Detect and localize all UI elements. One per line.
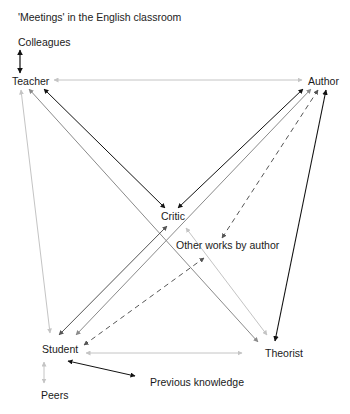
edge-student-previous-knowledge <box>68 361 135 376</box>
edge-student-other-works <box>84 258 204 345</box>
edge-author-critic <box>178 89 303 208</box>
edge-teacher-student <box>21 90 50 333</box>
node-teacher: Teacher <box>12 75 49 87</box>
node-theorist: Theorist <box>265 347 303 359</box>
edge-author-theorist <box>275 90 326 341</box>
node-colleagues: Colleagues <box>18 36 71 48</box>
node-previous-knowledge: Previous knowledge <box>150 376 244 388</box>
edge-author-student <box>76 89 311 335</box>
edge-author-other-works <box>222 90 318 238</box>
node-author: Author <box>308 75 339 87</box>
edge-teacher-critic <box>44 89 165 208</box>
edge-teacher-theorist <box>29 89 258 342</box>
node-peers: Peers <box>41 389 68 401</box>
edge-critic-student <box>59 226 167 335</box>
node-other-works: Other works by author <box>176 239 279 251</box>
node-student: Student <box>42 343 78 355</box>
node-critic: Critic <box>161 210 185 222</box>
